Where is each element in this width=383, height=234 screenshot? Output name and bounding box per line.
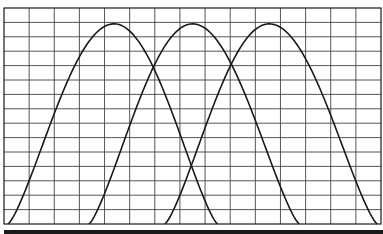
bell-curves-chart bbox=[0, 0, 383, 234]
curve-2-line bbox=[89, 24, 299, 224]
chart-grid bbox=[4, 8, 381, 224]
bottom-rule bbox=[4, 230, 383, 234]
chart-frame bbox=[4, 8, 381, 224]
chart-curves bbox=[8, 24, 377, 224]
curve-3-line bbox=[165, 24, 377, 224]
curve-1-line bbox=[8, 24, 218, 224]
